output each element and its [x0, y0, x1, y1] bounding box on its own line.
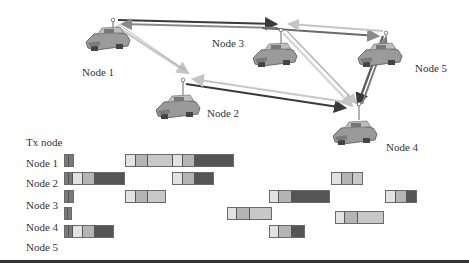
vehicle-node4 — [333, 102, 377, 145]
slot-lightmid — [148, 191, 165, 202]
slot-lightmid — [148, 155, 173, 166]
transmission-block — [335, 211, 384, 224]
slot-mid — [396, 191, 407, 202]
link-node3-to-node1 — [122, 24, 278, 28]
row-label-node2: Node 2 — [26, 177, 58, 189]
slot-light — [386, 191, 396, 202]
slot-light — [173, 155, 183, 166]
slot-dark — [292, 191, 329, 202]
slot-light — [270, 191, 279, 202]
slot-mid — [345, 212, 358, 223]
slot-dark — [95, 173, 124, 184]
row-label-node1: Node 1 — [26, 157, 58, 169]
slot-mid — [183, 173, 195, 184]
slot-marker — [69, 155, 73, 166]
transmission-block — [269, 225, 305, 238]
transmission-block — [125, 154, 234, 167]
transmission-block — [64, 172, 125, 185]
link-node1-to-node2-edge — [118, 24, 185, 70]
slot-light — [126, 191, 136, 202]
row-label-node5: Node 5 — [26, 241, 58, 253]
transmission-block — [64, 154, 74, 167]
bottom-divider — [0, 260, 469, 263]
slot-light — [173, 173, 183, 184]
link-node1-to-node2 — [116, 26, 188, 73]
node-label-node3: Node 3 — [212, 37, 244, 49]
transmission-block — [385, 190, 417, 203]
slot-lightmid — [358, 212, 383, 223]
timeline-header: Tx node — [26, 136, 62, 148]
link-node3-to-node4-b — [287, 31, 356, 103]
row-label-node4: Node 4 — [26, 221, 58, 233]
slot-mid — [83, 173, 95, 184]
slot-mid — [279, 226, 292, 237]
node-label-node1: Node 1 — [82, 66, 114, 78]
vehicle-node5 — [358, 31, 402, 67]
link-node2-to-node4 — [186, 84, 345, 108]
node-label-node5: Node 5 — [415, 62, 447, 74]
slot-mid — [237, 208, 250, 219]
slot-mid — [136, 191, 148, 202]
link-node1-to-node3 — [118, 20, 276, 24]
node-label-node2: Node 2 — [207, 107, 239, 119]
slot-mid — [183, 155, 195, 166]
transmission-block — [172, 172, 214, 185]
slot-light — [332, 173, 342, 184]
slot-mid — [136, 155, 148, 166]
row-label-node3: Node 3 — [26, 199, 58, 211]
link-node4-to-node2 — [193, 79, 352, 103]
transmission-block — [64, 207, 72, 220]
node-label-node4: Node 4 — [386, 141, 418, 153]
transmission-block — [227, 207, 272, 220]
slot-dark — [292, 226, 304, 237]
slot-marker — [69, 191, 73, 202]
transmission-block — [64, 225, 114, 238]
slot-light — [73, 173, 83, 184]
slot-light — [228, 208, 237, 219]
slot-mid — [342, 173, 353, 184]
transmission-block — [331, 172, 363, 185]
slot-light — [336, 212, 345, 223]
slot-dark — [95, 226, 113, 237]
slot-light — [73, 226, 83, 237]
links — [116, 20, 386, 108]
slot-dark — [195, 173, 213, 184]
slot-mid — [83, 226, 95, 237]
slot-lightmid — [353, 173, 362, 184]
slot-dark — [407, 191, 416, 202]
slot-light — [270, 226, 279, 237]
transmission-block — [269, 190, 330, 203]
transmission-block — [64, 190, 74, 203]
transmission-block — [125, 190, 166, 203]
slot-lightmid — [250, 208, 271, 219]
slot-marker — [68, 208, 71, 219]
slot-mid — [279, 191, 292, 202]
slot-light — [126, 155, 136, 166]
slot-dark — [195, 155, 233, 166]
